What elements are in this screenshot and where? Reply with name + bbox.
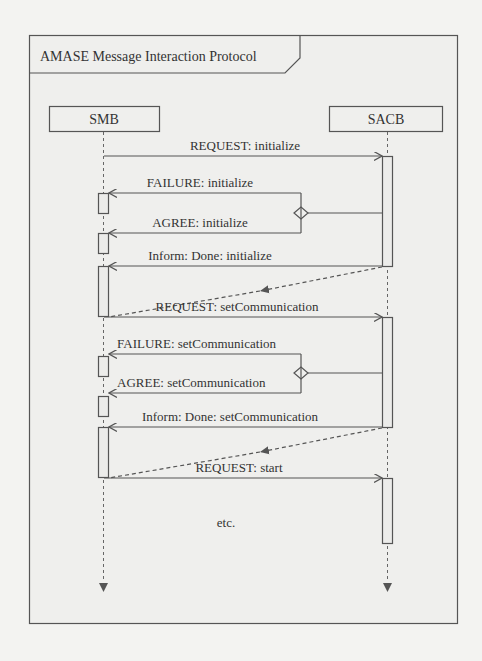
lifeline-sacb-label: SACB — [368, 112, 405, 127]
svg-text:AGREE: initialize: AGREE: initialize — [152, 215, 248, 230]
activation-bar — [99, 428, 109, 478]
activation-bar — [383, 479, 393, 544]
svg-text:Inform: Done: setCommunication: Inform: Done: setCommunication — [142, 409, 319, 424]
activation-bar — [99, 267, 109, 317]
frame-title: AMASE Message Interaction Protocol — [40, 49, 257, 64]
svg-text:AGREE: setCommunication: AGREE: setCommunication — [117, 375, 266, 390]
activation-bar — [99, 397, 109, 417]
activation-bar — [383, 157, 393, 267]
svg-text:Inform: Done: initialize: Inform: Done: initialize — [148, 248, 272, 263]
activation-bar — [99, 234, 109, 254]
svg-text:FAILURE: initialize: FAILURE: initialize — [147, 175, 253, 190]
svg-text:REQUEST: initialize: REQUEST: initialize — [190, 138, 300, 153]
svg-text:REQUEST: start: REQUEST: start — [195, 460, 282, 475]
activation-bar — [383, 318, 393, 428]
continuation-text: etc. — [217, 515, 235, 530]
activation-bar — [99, 357, 109, 377]
svg-text:FAILURE: setCommunication: FAILURE: setCommunication — [117, 336, 276, 351]
svg-text:REQUEST: setCommunication: REQUEST: setCommunication — [156, 299, 319, 314]
sequence-diagram: AMASE Message Interaction Protocol SMB S… — [0, 0, 482, 661]
lifeline-smb-label: SMB — [89, 112, 119, 127]
activation-bar — [99, 194, 109, 214]
